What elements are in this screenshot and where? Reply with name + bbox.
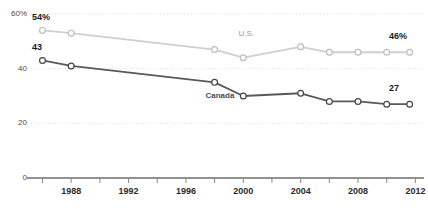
- chart-canvas: [0, 0, 428, 209]
- data-point-canada-2011.6: [407, 101, 413, 107]
- y-axis-label-60: 60%: [0, 9, 27, 18]
- line-chart: 0204060%1988199219962000200420082012U.S.…: [0, 0, 428, 209]
- x-axis-label-2012: 2012: [395, 186, 428, 196]
- canada-end-value: 27: [389, 83, 428, 93]
- us-series-label: U.S.: [238, 29, 278, 38]
- y-axis-label-0: 0: [0, 173, 27, 182]
- data-point-us-2011.6: [407, 49, 413, 55]
- x-axis-label-1992: 1992: [109, 186, 149, 196]
- data-point-us-2000: [240, 55, 246, 61]
- data-point-canada-1986: [40, 58, 46, 64]
- data-point-canada-1998: [212, 79, 218, 85]
- data-point-us-2010: [384, 49, 390, 55]
- data-point-canada-2010: [384, 101, 390, 107]
- x-axis-label-1996: 1996: [166, 186, 206, 196]
- data-point-us-2006: [326, 49, 332, 55]
- data-point-canada-2004: [298, 90, 304, 96]
- canada-series-label: Canada: [205, 91, 245, 100]
- data-point-us-1998: [212, 47, 218, 53]
- us-start-value: 54%: [32, 12, 72, 22]
- data-point-us-2008: [355, 49, 361, 55]
- series-line-us: [42, 30, 409, 57]
- data-point-us-2004: [298, 44, 304, 50]
- y-axis-label-40: 40: [0, 64, 27, 73]
- y-axis-label-20: 20: [0, 118, 27, 127]
- us-end-value: 46%: [389, 31, 428, 41]
- x-axis-label-1988: 1988: [51, 186, 91, 196]
- data-point-canada-1988: [68, 63, 74, 69]
- data-point-canada-2006: [326, 99, 332, 105]
- x-axis-label-2004: 2004: [281, 186, 321, 196]
- data-point-us-1986: [40, 28, 46, 34]
- canada-start-value: 43: [32, 42, 72, 52]
- data-point-us-1988: [68, 30, 74, 36]
- x-axis-label-2008: 2008: [338, 186, 378, 196]
- data-point-canada-2008: [355, 99, 361, 105]
- x-axis-label-2000: 2000: [223, 186, 263, 196]
